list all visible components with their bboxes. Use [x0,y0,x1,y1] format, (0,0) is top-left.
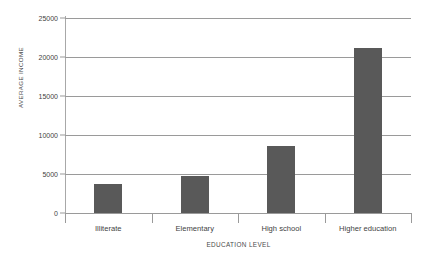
x-tick-mark [152,213,153,223]
y-tick-label: 5000 [18,171,58,178]
y-tick-label: 25000 [18,15,58,22]
plot-area [65,18,411,213]
x-axis-title: EDUCATION LEVEL [65,241,412,248]
x-tick-mark [411,213,412,223]
bar [94,184,122,213]
x-tick-label: Higher education [339,224,396,233]
y-axis-title: AVERAGE INCOME [17,28,24,128]
x-tick-label: Illiterate [95,224,122,233]
bar [354,48,382,213]
bar [181,176,209,213]
x-tick-label: High school [261,224,301,233]
bar [267,146,295,213]
x-tick-mark [238,213,239,223]
gridline [65,18,411,19]
x-axis-categories: IlliterateElementaryHigh schoolHigher ed… [65,213,412,239]
x-tick-label: Elementary [176,224,214,233]
y-tick-label: 0 [18,210,58,217]
bar-chart: AVERAGE INCOME 0500010000150002000025000… [0,0,430,263]
y-tick-label: 20000 [18,54,58,61]
y-tick-label: 10000 [18,132,58,139]
x-tick-mark [65,213,66,223]
x-tick-mark [325,213,326,223]
y-tick-label: 15000 [18,93,58,100]
